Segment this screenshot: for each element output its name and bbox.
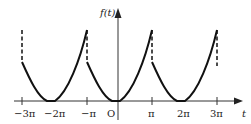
tick-label-minus-pi: −π <box>81 108 96 119</box>
tick-label-pi: π <box>148 108 155 119</box>
tick-label-minus-3pi: −3π <box>14 108 36 119</box>
y-axis-label: f(t) <box>99 7 116 18</box>
tick-label-minus-2pi: −2π <box>44 108 66 119</box>
x-axis-label: t <box>242 108 247 119</box>
plot-svg: f(t) t O −3π −2π −π π 2π 3π <box>0 0 251 124</box>
x-axis-arrow-icon <box>234 98 243 105</box>
discontinuity-lines <box>22 30 217 66</box>
tick-label-3pi: 3π <box>210 108 223 119</box>
periodic-function-diagram: f(t) t O −3π −2π −π π 2π 3π <box>0 0 251 124</box>
function-curve <box>22 30 217 101</box>
y-axis-arrow-icon <box>115 8 122 18</box>
tick-label-2pi: 2π <box>177 108 190 119</box>
origin-label: O <box>107 108 115 119</box>
